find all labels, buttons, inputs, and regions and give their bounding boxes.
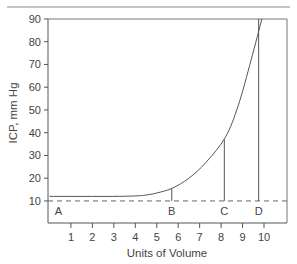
x-tick-label: 10: [258, 231, 270, 243]
y-tick-label: 90: [29, 13, 41, 25]
y-tick-label: 30: [29, 149, 41, 161]
x-ticks: 12345678910: [68, 223, 270, 243]
y-tick-label: 80: [29, 36, 41, 48]
y-tick-label: 10: [29, 195, 41, 207]
y-axis-title: ICP, mm Hg: [7, 82, 19, 143]
x-axis-title: Units of Volume: [127, 247, 208, 259]
y-tick-label: 70: [29, 58, 41, 70]
x-tick-label: 3: [111, 231, 117, 243]
point-label-a: A: [55, 205, 63, 217]
point-label-c: C: [220, 205, 228, 217]
point-markers: [172, 19, 259, 201]
x-tick-label: 4: [132, 231, 138, 243]
icp-volume-chart: 102030405060708090 12345678910 ABCD Unit…: [0, 0, 297, 264]
x-tick-label: 9: [239, 231, 245, 243]
y-tick-label: 20: [29, 172, 41, 184]
y-tick-label: 40: [29, 127, 41, 139]
y-ticks: 102030405060708090: [29, 13, 48, 207]
point-labels: ABCD: [55, 205, 263, 217]
pressure-volume-curve: [50, 19, 262, 196]
x-tick-label: 2: [89, 231, 95, 243]
point-label-d: D: [255, 205, 263, 217]
x-tick-label: 5: [154, 231, 160, 243]
x-tick-label: 6: [175, 231, 181, 243]
x-tick-label: 7: [197, 231, 203, 243]
y-tick-label: 50: [29, 104, 41, 116]
y-tick-label: 60: [29, 81, 41, 93]
x-tick-label: 8: [218, 231, 224, 243]
x-tick-label: 1: [68, 231, 74, 243]
point-label-b: B: [168, 205, 175, 217]
